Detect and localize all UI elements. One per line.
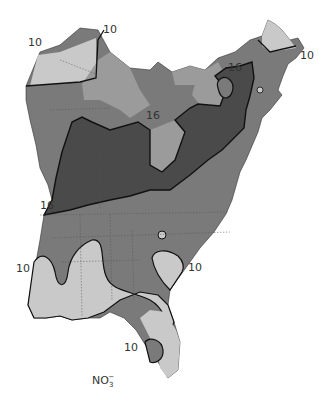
contour-label: 10: [124, 342, 138, 353]
region-tampa-dark: [145, 339, 163, 362]
contour-label: 10: [28, 37, 42, 48]
contour-label: 16: [146, 110, 160, 121]
contour-label: 10: [188, 262, 202, 273]
region-nc-spot: [158, 231, 166, 239]
contour-label: 16: [228, 62, 242, 73]
map-title: NO3−: [92, 373, 114, 389]
contour-label: 10: [103, 24, 117, 35]
contour-label: 10: [300, 50, 314, 61]
contour-label: 10: [16, 263, 30, 274]
contour-label: 16: [40, 200, 54, 211]
region-nh-spot: [257, 87, 263, 93]
